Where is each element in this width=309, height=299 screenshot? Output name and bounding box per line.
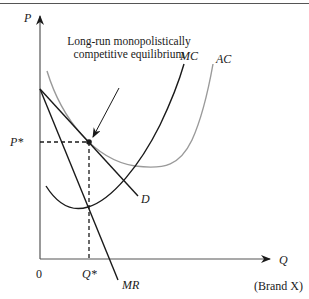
- origin-label: 0: [36, 268, 42, 280]
- annotation-arrow: [93, 88, 119, 137]
- ac-curve: [47, 64, 213, 167]
- mc-label: MC: [180, 50, 198, 62]
- mr-label: MR: [122, 279, 139, 291]
- equilibrium-annotation: Long-run monopolistically competitive eq…: [64, 35, 194, 61]
- annotation-line-2: competitive equilibrium: [64, 48, 194, 61]
- mr-curve: [40, 89, 118, 280]
- annotation-line-1: Long-run monopolistically: [64, 35, 194, 48]
- ac-label: AC: [216, 53, 231, 65]
- x-axis-sublabel: (Brand X): [254, 280, 303, 292]
- mc-curve: [46, 64, 184, 209]
- p-star-label: P*: [10, 136, 23, 148]
- x-axis-label: Q: [279, 254, 288, 266]
- demand-label: D: [141, 193, 150, 205]
- equilibrium-point: [86, 139, 92, 145]
- q-star-label: Q*: [82, 268, 97, 280]
- y-axis-label: P: [24, 12, 31, 24]
